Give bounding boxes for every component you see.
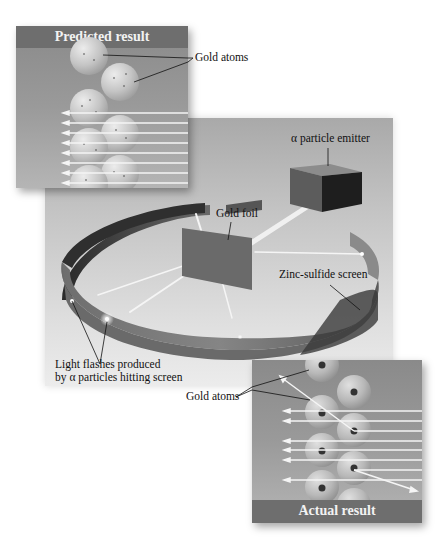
gold-foil-label: Gold foil	[216, 207, 258, 219]
screen-label: Zinc-sulfide screen	[279, 268, 367, 280]
flashes-label-line1: Light flashes produced	[55, 358, 182, 371]
predicted-result-panel: Predicted result	[16, 26, 188, 188]
emitter-label: α particle emitter	[291, 132, 370, 144]
gold-foil	[182, 228, 252, 290]
actual-atoms-illustration	[252, 360, 422, 523]
flashes-label-line2: by α particles hitting screen	[55, 371, 182, 384]
actual-gold-atoms-label: Gold atoms	[186, 390, 239, 402]
flashes-label: Light flashes produced by α particles hi…	[55, 358, 182, 384]
actual-result-panel: Actual result	[252, 360, 422, 523]
predicted-gold-atoms-label: Gold atoms	[195, 51, 248, 63]
predicted-atoms-illustration	[16, 26, 188, 188]
actual-result-title: Actual result	[252, 500, 422, 523]
alpha-particle-emitter	[290, 148, 362, 212]
